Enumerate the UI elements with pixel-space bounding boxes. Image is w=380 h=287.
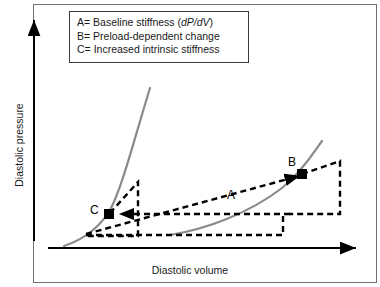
legend-item-a-italic: dP/dV bbox=[181, 16, 210, 28]
legend-item-b-text: B= Preload-dependent change bbox=[77, 30, 220, 42]
y-axis-label: Diastolic pressure bbox=[13, 80, 25, 210]
legend-box: A= Baseline stiffness (dP/dV) B= Preload… bbox=[69, 11, 249, 63]
label-point-a: A bbox=[227, 188, 235, 202]
legend-item-a-suffix: ) bbox=[210, 16, 214, 28]
marker-point-c bbox=[104, 209, 114, 219]
legend-item-c-text: C= Increased intrinsic stiffness bbox=[77, 43, 220, 55]
legend-item-c: C= Increased intrinsic stiffness bbox=[77, 43, 241, 57]
figure-container: A B C A= Baseline stiffness (dP/dV) B= P… bbox=[0, 0, 380, 287]
label-point-c: C bbox=[90, 203, 99, 217]
legend-item-a: A= Baseline stiffness (dP/dV) bbox=[77, 16, 241, 30]
marker-point-b bbox=[297, 169, 307, 179]
legend-item-b: B= Preload-dependent change bbox=[77, 30, 241, 44]
x-axis-label: Diastolic volume bbox=[0, 264, 380, 276]
baseline-curve bbox=[170, 141, 322, 235]
label-point-b: B bbox=[288, 155, 296, 169]
legend-item-a-text: A= Baseline stiffness ( bbox=[77, 16, 181, 28]
